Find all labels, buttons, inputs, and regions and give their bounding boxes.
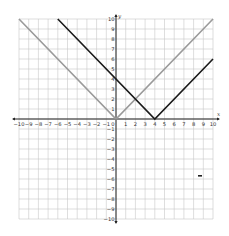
x-axis-label: x xyxy=(217,111,221,117)
svg-text:−7: −7 xyxy=(44,121,52,127)
svg-text:10: 10 xyxy=(108,16,115,22)
svg-text:9: 9 xyxy=(202,121,205,127)
svg-text:−3: −3 xyxy=(107,146,115,152)
svg-text:0: 0 xyxy=(111,121,114,127)
svg-text:−10: −10 xyxy=(14,121,25,127)
svg-text:2: 2 xyxy=(111,96,114,102)
svg-text:−2: −2 xyxy=(107,136,115,142)
coordinate-plane-chart: −10−9−8−7−6−5−4−3−2−112345678910−10−9−8−… xyxy=(0,0,229,236)
svg-text:7: 7 xyxy=(111,46,114,52)
svg-text:−8: −8 xyxy=(107,196,115,202)
svg-text:−5: −5 xyxy=(107,166,115,172)
svg-text:4: 4 xyxy=(153,121,157,127)
svg-text:−2: −2 xyxy=(93,121,101,127)
svg-text:3: 3 xyxy=(111,86,114,92)
svg-text:6: 6 xyxy=(111,56,114,62)
svg-text:−7: −7 xyxy=(107,186,115,192)
svg-text:6: 6 xyxy=(173,121,176,127)
svg-text:3: 3 xyxy=(143,121,146,127)
svg-text:−10: −10 xyxy=(104,216,115,222)
svg-text:−9: −9 xyxy=(25,121,33,127)
svg-text:8: 8 xyxy=(192,121,195,127)
svg-text:10: 10 xyxy=(210,121,217,127)
svg-text:5: 5 xyxy=(111,66,114,72)
svg-text:7: 7 xyxy=(182,121,185,127)
svg-text:−3: −3 xyxy=(83,121,91,127)
svg-text:−6: −6 xyxy=(107,176,115,182)
svg-text:−4: −4 xyxy=(73,121,81,127)
svg-text:5: 5 xyxy=(163,121,166,127)
svg-text:1: 1 xyxy=(124,121,127,127)
svg-text:1: 1 xyxy=(111,106,114,112)
svg-text:−8: −8 xyxy=(35,121,43,127)
stray-mark xyxy=(198,175,202,177)
svg-text:2: 2 xyxy=(134,121,137,127)
svg-text:8: 8 xyxy=(111,36,114,42)
svg-text:−9: −9 xyxy=(107,206,115,212)
svg-text:−5: −5 xyxy=(64,121,72,127)
svg-text:9: 9 xyxy=(111,26,114,32)
svg-text:−4: −4 xyxy=(107,156,115,162)
svg-text:−6: −6 xyxy=(54,121,62,127)
